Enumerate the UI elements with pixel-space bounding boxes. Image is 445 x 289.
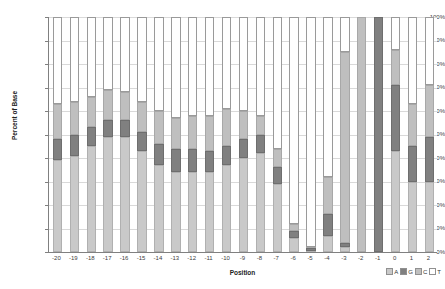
x-axis-tick-label: -11 <box>200 255 217 265</box>
bar-segment-a <box>154 165 163 252</box>
bar-slot <box>320 17 337 252</box>
stacked-bar[interactable] <box>171 17 180 252</box>
bar-slot <box>49 17 66 252</box>
x-axis-tick-label: -17 <box>99 255 116 265</box>
legend-item-a[interactable]: A <box>386 268 398 275</box>
bar-segment-g <box>53 139 62 160</box>
x-axis-tick-label: -15 <box>133 255 150 265</box>
bar-segment-g <box>374 17 383 252</box>
x-axis-tick-label: -12 <box>183 255 200 265</box>
stacked-bar[interactable] <box>273 17 282 252</box>
x-axis-tick-label: 2 <box>420 255 437 265</box>
bar-segment-c <box>137 102 146 133</box>
bar-segment-a <box>391 151 400 252</box>
bar-slot <box>83 17 100 252</box>
bar-segment-a <box>425 182 434 253</box>
x-axis-tick-labels: -20-19-18-17-16-15-14-13-12-11-10-9-8-7-… <box>48 255 437 265</box>
stacked-bar[interactable] <box>425 17 434 252</box>
bar-segment-t <box>340 17 349 52</box>
stacked-bar[interactable] <box>53 17 62 252</box>
stacked-bar[interactable] <box>87 17 96 252</box>
bar-segment-c <box>154 111 163 144</box>
legend-item-g[interactable]: G <box>400 268 413 275</box>
bar-segment-a <box>171 172 180 252</box>
x-axis-tick-label: -13 <box>166 255 183 265</box>
bar-segment-t <box>205 17 214 116</box>
bar-segment-g <box>289 231 298 238</box>
bar-slot <box>117 17 134 252</box>
bar-segment-c <box>256 116 265 135</box>
stacked-bar[interactable] <box>103 17 112 252</box>
plot-area <box>48 17 437 253</box>
bar-segment-g <box>323 214 332 235</box>
bar-segment-c <box>87 97 96 128</box>
x-axis-tick-label: -6 <box>285 255 302 265</box>
stacked-bar[interactable] <box>357 17 366 252</box>
bar-slot <box>252 17 269 252</box>
bar-segment-t <box>273 17 282 149</box>
x-axis-tick-label: -19 <box>65 255 82 265</box>
bar-segment-a <box>340 247 349 252</box>
legend-label: T <box>437 269 441 275</box>
stacked-bar[interactable] <box>222 17 231 252</box>
bar-segment-a <box>70 156 79 252</box>
legend-item-c[interactable]: C <box>415 268 427 275</box>
bar-segment-t <box>222 17 231 109</box>
bar-segment-c <box>391 50 400 85</box>
stacked-bar[interactable] <box>340 17 349 252</box>
stacked-bar[interactable] <box>289 17 298 252</box>
bar-segment-c <box>120 92 129 120</box>
stacked-bar[interactable] <box>374 17 383 252</box>
stacked-bar[interactable] <box>188 17 197 252</box>
stacked-bar[interactable] <box>137 17 146 252</box>
bar-segment-g <box>306 248 315 250</box>
stacked-bar[interactable] <box>239 17 248 252</box>
bar-segment-c <box>340 52 349 242</box>
bar-segment-t <box>103 17 112 90</box>
bar-slot <box>134 17 151 252</box>
bar-segment-t <box>137 17 146 102</box>
stacked-bar[interactable] <box>391 17 400 252</box>
bar-segment-a <box>53 160 62 252</box>
stacked-bar[interactable] <box>205 17 214 252</box>
bar-slot <box>218 17 235 252</box>
bar-segment-a <box>120 137 129 252</box>
bar-segment-t <box>239 17 248 111</box>
stacked-bar[interactable] <box>323 17 332 252</box>
bar-segment-a <box>222 165 231 252</box>
bar-segment-g <box>171 149 180 173</box>
bar-segment-c <box>273 149 282 168</box>
bar-slot <box>353 17 370 252</box>
bar-segment-g <box>120 120 129 136</box>
bar-segment-a <box>273 184 282 252</box>
bar-segment-t <box>171 17 180 118</box>
legend-item-t[interactable]: T <box>429 268 441 275</box>
bar-slot <box>184 17 201 252</box>
stacked-bar[interactable] <box>306 17 315 252</box>
stacked-bar[interactable] <box>154 17 163 252</box>
bar-segment-c <box>425 85 434 137</box>
bar-segment-a <box>188 172 197 252</box>
bar-slot <box>404 17 421 252</box>
stacked-bar[interactable] <box>408 17 417 252</box>
bar-segment-t <box>154 17 163 111</box>
bar-segment-t <box>87 17 96 97</box>
bar-segment-c <box>323 177 332 215</box>
bar-segment-a <box>239 158 248 252</box>
bar-segment-g <box>256 135 265 154</box>
bar-segment-c <box>289 224 298 231</box>
stacked-bar[interactable] <box>120 17 129 252</box>
bar-slot <box>201 17 218 252</box>
x-axis-tick-label: 1 <box>403 255 420 265</box>
bar-segment-c <box>103 90 112 121</box>
stacked-bar[interactable] <box>256 17 265 252</box>
x-axis-tick-label: -16 <box>116 255 133 265</box>
bar-segment-g <box>408 146 417 181</box>
bar-slot <box>286 17 303 252</box>
x-axis-tick-label: -4 <box>319 255 336 265</box>
stacked-bar[interactable] <box>70 17 79 252</box>
bar-segment-c <box>70 102 79 135</box>
bar-segment-a <box>323 236 332 252</box>
bar-segment-a <box>137 151 146 252</box>
legend-label: C <box>423 269 427 275</box>
